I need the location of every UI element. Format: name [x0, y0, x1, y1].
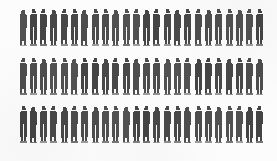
- person-silhouette-icon: [224, 105, 234, 144]
- person-silhouette-icon: [162, 105, 172, 144]
- person-silhouette-icon: [59, 105, 69, 144]
- person-silhouette-icon: [80, 57, 90, 96]
- person-silhouette-icon: [162, 8, 172, 47]
- person-silhouette-icon: [214, 57, 224, 96]
- person-silhouette-icon: [142, 105, 152, 144]
- person-silhouette-icon: [255, 105, 265, 144]
- person-silhouette-icon: [234, 8, 244, 47]
- person-silhouette-icon: [193, 8, 203, 47]
- person-silhouette-icon: [69, 57, 79, 96]
- person-silhouette-icon: [18, 8, 28, 47]
- person-silhouette-icon: [59, 8, 69, 47]
- person-silhouette-icon: [172, 105, 182, 144]
- person-silhouette-icon: [193, 57, 203, 96]
- person-silhouette-icon: [28, 8, 38, 47]
- person-silhouette-icon: [172, 57, 182, 96]
- person-silhouette-icon: [234, 57, 244, 96]
- person-silhouette-icon: [224, 8, 234, 47]
- pictogram-figure: [0, 0, 277, 161]
- person-silhouette-icon: [49, 8, 59, 47]
- person-silhouette-icon: [214, 8, 224, 47]
- person-silhouette-icon: [162, 57, 172, 96]
- person-silhouette-icon: [131, 8, 141, 47]
- person-silhouette-icon: [131, 57, 141, 96]
- person-silhouette-icon: [39, 8, 49, 47]
- person-silhouette-icon: [255, 57, 265, 96]
- person-silhouette-icon: [152, 105, 162, 144]
- person-silhouette-icon: [18, 57, 28, 96]
- person-silhouette-icon: [100, 57, 110, 96]
- person-silhouette-icon: [49, 57, 59, 96]
- person-silhouette-icon: [90, 8, 100, 47]
- pictogram-row: [18, 105, 266, 144]
- person-silhouette-icon: [203, 57, 213, 96]
- person-silhouette-icon: [121, 8, 131, 47]
- person-silhouette-icon: [203, 105, 213, 144]
- person-silhouette-icon: [90, 105, 100, 144]
- person-silhouette-icon: [224, 57, 234, 96]
- pictogram-rows-container: [0, 0, 277, 161]
- person-silhouette-icon: [121, 105, 131, 144]
- person-silhouette-icon: [49, 105, 59, 144]
- person-silhouette-icon: [111, 8, 121, 47]
- person-silhouette-icon: [39, 105, 49, 144]
- person-silhouette-icon: [172, 8, 182, 47]
- person-silhouette-icon: [183, 8, 193, 47]
- person-silhouette-icon: [183, 57, 193, 96]
- person-silhouette-icon: [69, 8, 79, 47]
- person-silhouette-icon: [100, 8, 110, 47]
- person-silhouette-icon: [80, 105, 90, 144]
- person-silhouette-icon: [80, 8, 90, 47]
- person-silhouette-icon: [152, 8, 162, 47]
- person-silhouette-icon: [214, 105, 224, 144]
- person-silhouette-icon: [28, 105, 38, 144]
- person-silhouette-icon: [152, 57, 162, 96]
- person-silhouette-icon: [183, 105, 193, 144]
- pictogram-row: [18, 8, 266, 47]
- person-silhouette-icon: [245, 57, 255, 96]
- person-silhouette-icon: [111, 57, 121, 96]
- person-silhouette-icon: [255, 8, 265, 47]
- person-silhouette-icon: [39, 57, 49, 96]
- person-silhouette-icon: [234, 105, 244, 144]
- person-silhouette-icon: [203, 8, 213, 47]
- person-silhouette-icon: [18, 105, 28, 144]
- person-silhouette-icon: [121, 57, 131, 96]
- person-silhouette-icon: [111, 105, 121, 144]
- person-silhouette-icon: [245, 8, 255, 47]
- person-silhouette-icon: [142, 8, 152, 47]
- person-silhouette-icon: [100, 105, 110, 144]
- person-silhouette-icon: [28, 57, 38, 96]
- person-silhouette-icon: [69, 105, 79, 144]
- person-silhouette-icon: [90, 57, 100, 96]
- person-silhouette-icon: [245, 105, 255, 144]
- pictogram-row: [18, 57, 266, 96]
- person-silhouette-icon: [193, 105, 203, 144]
- person-silhouette-icon: [142, 57, 152, 96]
- person-silhouette-icon: [131, 105, 141, 144]
- person-silhouette-icon: [59, 57, 69, 96]
